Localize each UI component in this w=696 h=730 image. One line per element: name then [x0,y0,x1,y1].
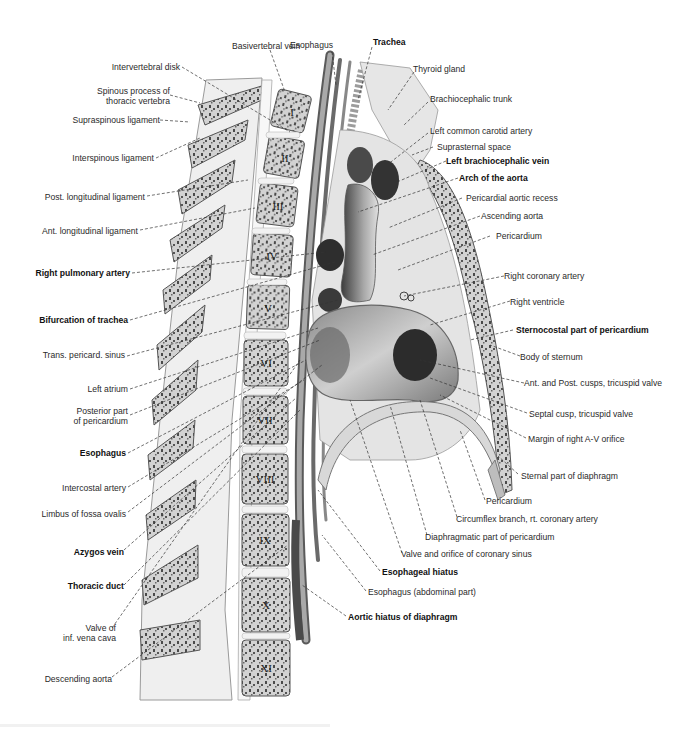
label-intercostal-artery: Intercostal artery [62,483,126,493]
label-circumflex-branch: Circumflex branch, rt. coronary artery [456,514,598,524]
label-brachiocephalic-trunk: Brachiocephalic trunk [430,94,512,104]
label-valve-orifice-coronary-sinus: Valve and orifice of coronary sinus [401,549,532,559]
label-bifurcation-of-trachea: Bifurcation of trachea [39,315,128,325]
label-left-brachiocephalic-vein: Left brachiocephalic vein [446,156,549,166]
svg-text:III: III [273,200,284,212]
svg-text:X: X [262,599,270,611]
label-interspinous-ligament: Interspinous ligament [72,153,154,163]
svg-text:IV: IV [266,250,278,262]
label-right-coronary-artery: Right coronary artery [504,271,584,281]
label-trans-pericard-sinus: Trans. pericard. sinus [43,350,125,360]
svg-text:II: II [281,152,289,164]
label-post-longitudinal-ligament: Post. longitudinal ligament [45,192,145,202]
svg-text:IX: IX [259,534,271,546]
label-margin-right-av-orifice: Margin of right A-V orifice [528,434,624,444]
label-suprasternal-space: Suprasternal space [437,142,511,152]
svg-text:V: V [264,302,272,314]
label-diaphragmatic-part-pericardium: Diaphragmatic part of pericardium [425,532,554,542]
label-supraspinous-ligament: Supraspinous ligament [73,115,160,125]
label-trachea: Trachea [373,37,406,47]
label-posterior-part-pericardium: Posterior part of pericardium [74,406,128,426]
label-esophagus-left: Esophagus [80,448,126,458]
label-left-atrium: Left atrium [87,384,128,394]
label-right-ventricle: Right ventricle [510,297,564,307]
svg-text:XI: XI [260,662,272,674]
label-thoracic-duct: Thoracic duct [68,581,124,591]
label-azygos-vein: Azygos vein [74,547,124,557]
label-septal-cusp-tricuspid: Septal cusp, tricuspid valve [529,409,633,419]
figure-caption-strip [0,718,696,730]
label-esophagus-top: Esophagus [290,40,333,50]
label-ascending-aorta: Ascending aorta [481,211,543,221]
label-left-common-carotid-artery: Left common carotid artery [430,126,532,136]
label-body-of-sternum: Body of sternum [520,352,583,362]
label-aortic-hiatus-diaphragm: Aortic hiatus of diaphragm [348,612,457,622]
label-right-pulmonary-artery: Right pulmonary artery [35,268,130,278]
label-pericardial-aortic-recess: Pericardial aortic recess [466,193,558,203]
label-limbus-fossa-ovalis: Limbus of fossa ovalis [41,509,126,519]
svg-text:VIII: VIII [256,473,275,485]
label-esophageal-hiatus: Esophageal hiatus [382,567,458,577]
label-ant-post-cusps-tricuspid: Ant. and Post. cusps, tricuspid valve [524,378,662,388]
label-pericardium-upper: Pericardium [496,231,542,241]
label-sternal-part-diaphragm: Sternal part of diaphragm [521,471,618,481]
label-sternocostal-part-pericardium: Sternocostal part of pericardium [516,325,649,335]
label-thyroid-gland: Thyroid gland [413,64,465,74]
label-intervertebral-disk: Intervertebral disk [112,62,180,72]
label-arch-of-aorta: Arch of the aorta [459,173,528,183]
svg-text:I: I [290,106,294,118]
label-pericardium-lower: Pericardium [486,496,532,506]
label-esophagus-abdominal: Esophagus (abdominal part) [368,587,476,597]
label-descending-aorta: Descending aorta [45,674,112,684]
label-spinous-process: Spinous process of thoracic vertebra [97,86,170,106]
label-valve-inf-vena-cava: Valve of inf. vena cava [63,623,116,643]
label-ant-longitudinal-ligament: Ant. longitudinal ligament [42,226,138,236]
anatomical-illustration: I II III IV V VI VII VIII IX X XI XII [0,0,696,730]
